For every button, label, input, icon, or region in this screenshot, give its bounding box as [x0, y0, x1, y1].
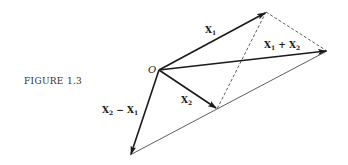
label-diff-op: − — [113, 105, 127, 115]
label-x1: X1 — [205, 25, 216, 36]
label-sum-base: X — [264, 40, 271, 50]
vector-diagram: FIGURE 1.3 O X1 X1 + X2 X2 X2 − X1 — [0, 0, 348, 165]
origin-label: O — [148, 64, 156, 75]
label-x2-base: X — [181, 95, 188, 105]
label-sum-sub2: 2 — [296, 44, 300, 51]
label-sum-base2: X — [289, 40, 296, 50]
label-diff-base: X — [102, 105, 109, 115]
vector-x1-arrow — [159, 13, 265, 70]
label-x2-sub: 2 — [188, 99, 192, 106]
figure-caption: FIGURE 1.3 — [24, 76, 82, 86]
label-sum: X1 + X2 — [264, 40, 300, 51]
vector-sum-arrow — [159, 51, 326, 70]
label-x1-sub: 1 — [212, 29, 216, 36]
label-sum-op: + — [275, 40, 289, 50]
label-diff-base2: X — [127, 105, 134, 115]
label-x2: X2 — [181, 95, 192, 106]
label-diff: X2 − X1 — [102, 105, 138, 116]
line-x2-to-sum — [217, 51, 327, 109]
label-x1-base: X — [205, 25, 212, 35]
label-diff-sub2: 1 — [134, 109, 138, 116]
